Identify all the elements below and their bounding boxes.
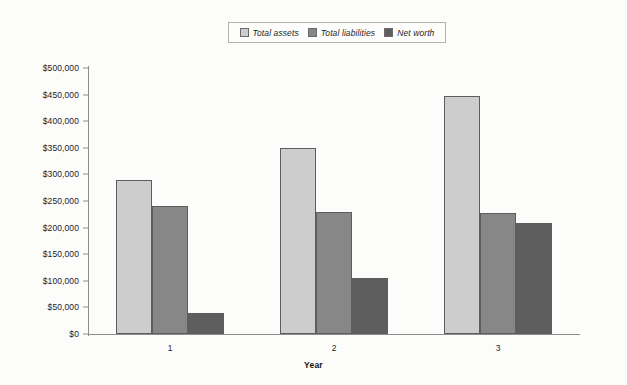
legend-item-net-worth: Net worth: [384, 28, 434, 38]
y-axis-tick-label: $50,000: [48, 302, 88, 312]
y-axis-tick-mark: [83, 147, 88, 148]
x-axis-title: Year: [0, 360, 627, 370]
y-axis-tick-label: $450,000: [43, 90, 88, 100]
y-axis-tick-mark: [83, 94, 88, 95]
y-axis-tick-mark: [83, 201, 88, 202]
y-axis-tick-mark: [83, 307, 88, 308]
bar-group: [116, 68, 224, 334]
y-axis-tick-mark: [83, 68, 88, 69]
bar-total-liabilities: [316, 212, 352, 334]
y-axis-tick-mark: [83, 174, 88, 175]
bar-group: [280, 68, 388, 334]
y-axis-tick-label: $300,000: [43, 169, 88, 179]
legend-swatch-icon-total-liabilities: [308, 28, 317, 37]
bar-group: [444, 68, 552, 334]
bar-total-liabilities: [480, 213, 516, 334]
bar-total-liabilities: [152, 206, 188, 334]
bar-net-worth: [516, 223, 552, 334]
y-axis-tick-label: $350,000: [43, 143, 88, 153]
y-axis-tick-label: $100,000: [43, 276, 88, 286]
x-axis-line: [88, 334, 580, 335]
chart-legend: Total assets Total liabilities Net worth: [228, 22, 446, 43]
y-axis-tick-mark: [83, 254, 88, 255]
legend-swatch-icon-total-assets: [240, 28, 249, 37]
y-axis-tick-label: $200,000: [43, 223, 88, 233]
bar-total-assets: [280, 148, 316, 334]
bar-chart: Total assets Total liabilities Net worth…: [0, 0, 627, 385]
legend-label-net-worth: Net worth: [397, 28, 434, 38]
legend-item-total-assets: Total assets: [240, 28, 299, 38]
x-axis-tick-label: 2: [332, 343, 337, 353]
bar-net-worth: [188, 313, 224, 334]
x-axis-tick-label: 3: [496, 343, 501, 353]
legend-item-total-liabilities: Total liabilities: [308, 28, 375, 38]
y-axis-tick-label: $500,000: [43, 63, 88, 73]
legend-swatch-icon-net-worth: [384, 28, 393, 37]
x-axis-tick-label: 1: [168, 343, 173, 353]
plot-area: $0$50,000$100,000$150,000$200,000$250,00…: [88, 68, 580, 334]
y-axis-tick-mark: [83, 334, 88, 335]
y-axis-tick-mark: [83, 280, 88, 281]
legend-label-total-liabilities: Total liabilities: [321, 28, 375, 38]
y-axis-tick-mark: [83, 227, 88, 228]
y-axis-tick-mark: [83, 121, 88, 122]
bar-total-assets: [444, 96, 480, 334]
bar-net-worth: [352, 278, 388, 334]
legend-label-total-assets: Total assets: [253, 28, 299, 38]
y-axis-tick-label: $150,000: [43, 249, 88, 259]
y-axis-tick-label: $250,000: [43, 196, 88, 206]
bar-total-assets: [116, 180, 152, 334]
y-axis-tick-label: $400,000: [43, 116, 88, 126]
